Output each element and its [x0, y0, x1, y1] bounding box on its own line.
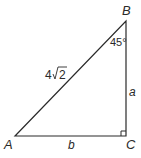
hypotenuse-label: 4 2 — [45, 67, 67, 82]
hypotenuse-radicand: 2 — [59, 68, 66, 82]
side-b-label: b — [68, 138, 75, 152]
angle-b-label: 45° — [110, 36, 127, 48]
vertex-c-label: C — [126, 137, 136, 152]
side-a-label: a — [129, 85, 136, 99]
vertex-b-label: B — [122, 3, 131, 18]
right-angle-marker — [121, 131, 126, 136]
triangle-diagram: B A C 45° a b 4 2 — [0, 0, 141, 158]
vertex-a-label: A — [3, 137, 13, 152]
hypotenuse-coefficient: 4 — [45, 68, 52, 82]
